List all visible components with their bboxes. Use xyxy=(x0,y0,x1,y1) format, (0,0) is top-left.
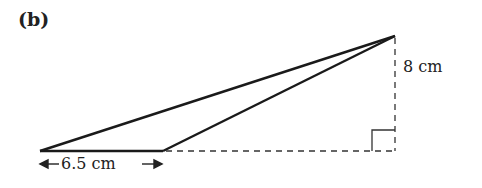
right-angle-marker xyxy=(372,130,395,151)
triangle-short-side xyxy=(163,36,395,151)
base-label: 6.5 cm xyxy=(61,154,116,173)
triangle-long-side xyxy=(40,36,395,151)
height-label: 8 cm xyxy=(403,57,442,76)
